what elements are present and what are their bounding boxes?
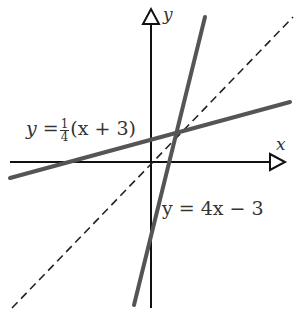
x-axis-label: x	[276, 134, 286, 154]
y-axis-arrow-icon	[143, 9, 159, 24]
x-axis-arrow-icon	[270, 154, 285, 170]
equation-label-line2: y = 4x − 3	[162, 197, 264, 219]
eq1-suffix: (x + 3)	[70, 117, 136, 139]
eq1-prefix: y =	[26, 117, 59, 139]
eq1-frac-num: 1	[60, 118, 70, 131]
equation-label-line1: y =14(x + 3)	[26, 117, 136, 143]
eq1-frac-den: 4	[60, 131, 70, 143]
y-axis-label: y	[163, 4, 173, 24]
eq1-fraction: 14	[60, 118, 70, 143]
coordinate-plane	[0, 0, 300, 316]
